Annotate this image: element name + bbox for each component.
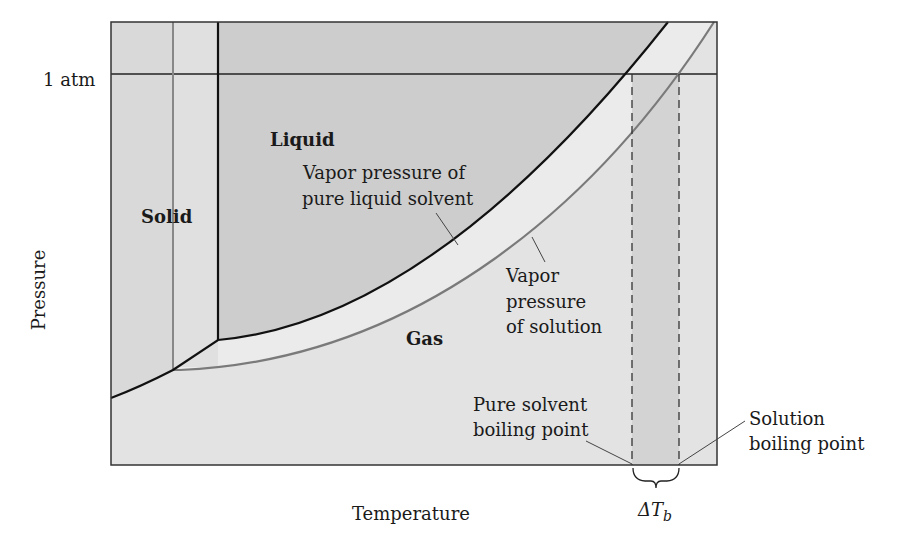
delta-tb-subscript: b	[663, 508, 672, 524]
gas-label: Gas	[406, 328, 443, 349]
delta-tb-band	[632, 74, 679, 465]
solution-bp-label-line1: Solution	[749, 408, 825, 429]
x-axis-label: Temperature	[352, 503, 470, 524]
delta-tb-brace	[633, 468, 679, 488]
vp-solution-label-line3: of solution	[506, 316, 602, 337]
vp-solution-label-line1: Vapor	[505, 265, 559, 286]
y-axis-label: Pressure	[28, 250, 49, 331]
one-atm-label: 1 atm	[43, 69, 95, 90]
vp-solution-label-line2: pressure	[506, 291, 586, 312]
solid-label: Solid	[141, 206, 193, 227]
pure-bp-label-line2: boiling point	[473, 419, 589, 440]
vp-pure-label-line1: Vapor pressure of	[302, 162, 466, 183]
delta-tb-main: ΔT	[637, 499, 665, 520]
phase-diagram: 1 atm Pressure Temperature Solid Liquid …	[0, 0, 898, 550]
delta-tb-label: ΔTb	[637, 499, 672, 524]
solution-bp-label-line2: boiling point	[749, 433, 865, 454]
vp-pure-label-line2: pure liquid solvent	[302, 188, 474, 209]
pure-bp-label-line1: Pure solvent	[473, 394, 588, 415]
liquid-label: Liquid	[270, 129, 335, 150]
